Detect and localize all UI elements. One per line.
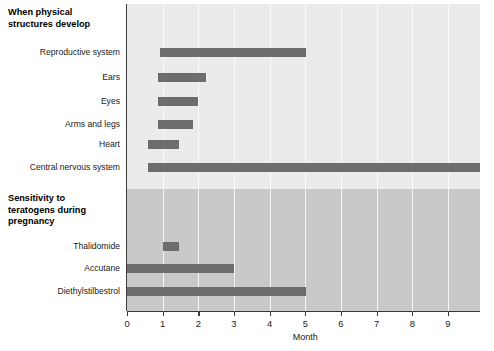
x-tick-label-4: 4 (260, 318, 280, 329)
section-heading-teratogen-sensitivity: Sensitivity to teratogens during pregnan… (8, 193, 120, 228)
section1-line1: When physical (8, 7, 120, 19)
section2-line1: Sensitivity to (8, 193, 120, 205)
bar-diethylstilbestrol (127, 287, 306, 296)
row-label-arms-and-legs: Arms and legs (0, 119, 120, 129)
x-tick-label-8: 8 (402, 318, 422, 329)
x-tick-label-7: 7 (367, 318, 387, 329)
section1-line2: structures develop (8, 19, 120, 31)
x-tick-4 (270, 311, 271, 316)
bar-reproductive-system (160, 48, 306, 57)
section-heading-physical-structures: When physical structures develop (8, 7, 120, 30)
row-label-gutter: When physical structures develop Sensiti… (0, 0, 127, 351)
bar-central-nervous-system (148, 163, 480, 172)
x-tick-7 (377, 311, 378, 316)
x-tick-5 (305, 311, 306, 316)
row-label-eyes: Eyes (0, 96, 120, 106)
row-label-reproductive-system: Reproductive system (0, 47, 120, 57)
x-tick-3 (234, 311, 235, 316)
gridline-6 (341, 4, 342, 311)
x-tick-6 (341, 311, 342, 316)
prenatal-development-chart: 0123456789 When physical structures deve… (0, 0, 494, 351)
row-label-ears: Ears (0, 72, 120, 82)
x-tick-9 (448, 311, 449, 316)
x-axis-line (127, 311, 480, 312)
x-tick-label-6: 6 (331, 318, 351, 329)
gridline-9 (448, 4, 449, 311)
row-label-central-nervous-system: Central nervous system (0, 162, 120, 172)
bar-accutane (127, 264, 234, 273)
section2-line3: pregnancy (8, 216, 120, 228)
bar-arms-and-legs (158, 120, 192, 129)
section2-line2: teratogens during (8, 205, 120, 217)
row-label-heart: Heart (0, 139, 120, 149)
x-axis-title: Month (275, 332, 335, 342)
plot-area (127, 4, 480, 311)
x-tick-label-1: 1 (153, 318, 173, 329)
x-tick-label-3: 3 (224, 318, 244, 329)
x-tick-1 (163, 311, 164, 316)
x-tick-2 (198, 311, 199, 316)
x-tick-label-5: 5 (295, 318, 315, 329)
x-tick-0 (127, 311, 128, 316)
gridline-7 (377, 4, 378, 311)
row-label-diethylstilbestrol: Diethylstilbestrol (0, 286, 120, 296)
row-label-thalidomide: Thalidomide (0, 241, 120, 251)
row-label-accutane: Accutane (0, 263, 120, 273)
gridline-8 (412, 4, 413, 311)
bar-heart (148, 140, 179, 149)
bar-eyes (158, 97, 197, 106)
x-tick-8 (412, 311, 413, 316)
x-tick-label-9: 9 (438, 318, 458, 329)
bar-ears (158, 73, 206, 82)
x-tick-label-2: 2 (188, 318, 208, 329)
bar-thalidomide (163, 242, 179, 251)
